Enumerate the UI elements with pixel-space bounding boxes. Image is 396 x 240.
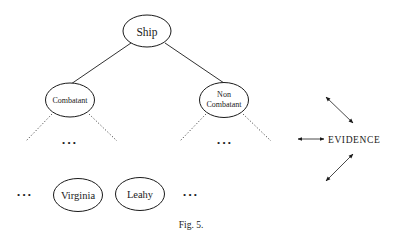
edge-ship-noncombatant (165, 43, 224, 83)
node-virginia: Virginia (54, 179, 103, 212)
edge-ship-combatant (71, 43, 131, 84)
evidence-arrow-upper (326, 97, 353, 123)
dotted-edge (180, 114, 206, 141)
node-combatant: Combatant (46, 83, 95, 117)
taxonomy-diagram: Ship Combatant Non Combatant • • • • • •… (0, 0, 396, 240)
ellipsis-right: • • • (183, 190, 197, 200)
node-ship-label: Ship (136, 26, 157, 39)
ellipsis-combatant: • • • (62, 138, 76, 148)
node-noncombatant-label-line1: Non (217, 90, 231, 99)
node-virginia-label: Virginia (61, 190, 96, 201)
evidence-arrow-lower (326, 154, 353, 181)
dotted-edge (89, 114, 117, 141)
node-leahy: Leahy (116, 178, 165, 211)
evidence-label: EVIDENCE (328, 135, 380, 145)
ellipsis-noncombatant: • • • (217, 138, 231, 148)
dotted-edge (26, 114, 52, 141)
node-ship: Ship (123, 15, 171, 47)
node-noncombatant-label-line2: Combatant (206, 100, 242, 109)
dotted-edge (243, 114, 271, 141)
node-combatant-label: Combatant (52, 96, 88, 105)
ellipsis-left: • • • (17, 190, 31, 200)
node-leahy-label: Leahy (127, 189, 154, 200)
figure-caption: Fig. 5. (179, 220, 204, 230)
node-noncombatant: Non Combatant (200, 83, 249, 118)
